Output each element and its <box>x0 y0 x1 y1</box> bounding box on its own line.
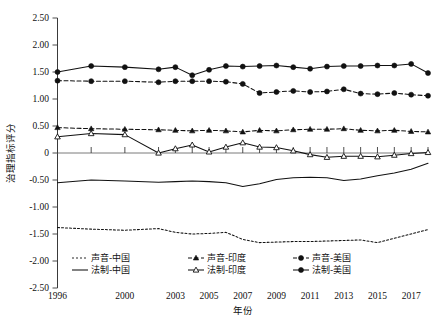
data-point <box>190 73 195 78</box>
y-tick-label: -0.50 <box>29 175 49 185</box>
y-tick-label: 1.00 <box>32 94 49 104</box>
data-point <box>240 81 245 86</box>
series-line-voice_china <box>58 228 429 243</box>
data-point <box>122 79 127 84</box>
series-line-law_china <box>58 163 429 186</box>
series-line-law_india <box>58 134 429 158</box>
legend-label: 声音-印度 <box>207 252 246 263</box>
data-point <box>291 65 296 70</box>
data-point <box>274 89 279 94</box>
legend-item-0[interactable]: 声音-中国 <box>72 252 130 263</box>
y-axis-tick-labels: 2.502.001.501.000.500-0.50-1.00-1.50-2.0… <box>29 13 49 293</box>
y-tick-label: -1.00 <box>29 202 49 212</box>
data-point <box>291 88 296 93</box>
data-point <box>409 61 414 66</box>
data-point <box>207 67 212 72</box>
data-point <box>122 65 127 70</box>
legend-item-1[interactable]: 声音-印度 <box>188 252 246 263</box>
legend-label: 法制-中国 <box>91 264 130 275</box>
x-tick-label: 1996 <box>48 291 67 301</box>
data-point <box>392 91 397 96</box>
data-point <box>341 87 346 92</box>
legend-swatch-marker <box>299 268 304 273</box>
data-point <box>425 129 430 134</box>
data-point <box>409 92 414 97</box>
y-axis-ticks <box>53 18 58 288</box>
data-point <box>240 140 246 145</box>
governance-indicator-line-chart: 2.502.001.501.000.500-0.50-1.00-1.50-2.0… <box>0 0 436 331</box>
x-tick-label: 2017 <box>402 291 421 301</box>
x-tick-label: 2000 <box>115 291 134 301</box>
series-voice_china <box>58 228 429 243</box>
y-tick-label: 2.00 <box>32 40 49 50</box>
data-point <box>308 66 313 71</box>
x-tick-label: 2015 <box>368 291 387 301</box>
legend-item-4[interactable]: 法制-印度 <box>188 264 246 275</box>
series-voice_usa <box>55 78 431 98</box>
y-tick-label: 0 <box>44 148 49 158</box>
data-point <box>223 79 228 84</box>
legend-item-2[interactable]: 声音-美国 <box>293 252 351 263</box>
data-point <box>156 80 161 85</box>
legend-swatch-marker <box>299 256 304 261</box>
x-tick-label: 2003 <box>166 291 185 301</box>
series-law_china <box>58 163 429 186</box>
y-tick-label: -1.50 <box>29 229 49 239</box>
data-point <box>426 93 431 98</box>
series-markers-law_usa <box>55 61 431 77</box>
x-tick-label: 2005 <box>200 291 219 301</box>
data-point <box>240 64 245 69</box>
data-point <box>257 64 262 69</box>
data-point <box>207 79 212 84</box>
series-markers-law_india <box>55 131 431 160</box>
legend-item-3[interactable]: 法制-中国 <box>72 264 130 275</box>
y-tick-label: -2.00 <box>29 256 49 266</box>
data-point <box>190 79 195 84</box>
y-axis-title: 治理指标评分 <box>5 123 16 183</box>
y-tick-label: 0.50 <box>32 121 49 131</box>
data-point <box>324 89 329 94</box>
legend-label: 声音-美国 <box>312 252 351 263</box>
x-tick-label: 2007 <box>233 291 252 301</box>
data-point <box>426 71 431 76</box>
data-point <box>189 142 195 147</box>
data-point <box>223 64 228 69</box>
data-point <box>375 92 380 97</box>
legend-label: 声音-中国 <box>91 252 130 263</box>
x-tick-label: 2013 <box>334 291 353 301</box>
data-point <box>358 91 363 96</box>
data-point <box>375 63 380 68</box>
data-point <box>324 64 329 69</box>
data-point <box>173 65 178 70</box>
data-point <box>55 78 60 83</box>
data-point <box>55 70 60 75</box>
x-tick-label: 2011 <box>301 291 320 301</box>
y-tick-label: -2.50 <box>29 283 49 293</box>
data-point <box>341 64 346 69</box>
y-tick-label: 1.50 <box>32 67 49 77</box>
data-point <box>341 126 346 131</box>
x-axis-tick-labels: 1996200020032005200720092011201320152017 <box>48 291 421 301</box>
data-point <box>173 79 178 84</box>
legend-label: 法制-印度 <box>207 264 246 275</box>
data-point <box>358 64 363 69</box>
data-point <box>89 64 94 69</box>
legend-label: 法制-美国 <box>312 264 351 275</box>
data-point <box>257 91 262 96</box>
data-point <box>89 79 94 84</box>
legend-item-5[interactable]: 法制-美国 <box>293 264 351 275</box>
data-point <box>392 63 397 68</box>
series-voice_india <box>55 125 431 134</box>
data-point <box>156 67 161 72</box>
series-law_usa <box>55 61 431 77</box>
data-point <box>308 89 313 94</box>
series-law_india <box>55 131 431 160</box>
x-axis-ticks <box>58 147 429 153</box>
x-tick-label: 2009 <box>267 291 286 301</box>
chart-legend: 声音-中国声音-印度声音-美国法制-中国法制-印度法制-美国 <box>72 252 351 275</box>
data-point <box>274 63 279 68</box>
chart-canvas: 2.502.001.501.000.500-0.50-1.00-1.50-2.0… <box>0 0 436 331</box>
x-axis-title: 年份 <box>233 305 253 316</box>
y-tick-label: 2.50 <box>32 13 49 23</box>
